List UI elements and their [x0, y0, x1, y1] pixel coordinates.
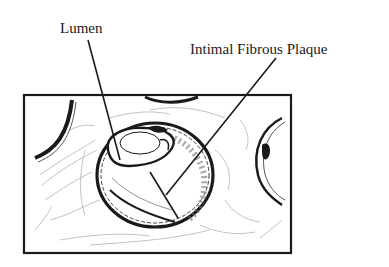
plaque-leader-line	[166, 58, 276, 195]
plaque-thickness-line	[150, 172, 178, 218]
micrograph-frame	[24, 95, 291, 253]
adjacent-vessel-left	[35, 100, 72, 158]
lumen-leader-line	[88, 40, 120, 160]
adjacent-vessel-right	[256, 118, 285, 205]
lumen-label: Lumen	[60, 20, 103, 36]
artery-diagram: Lumen Intimal Fibrous Plaque	[0, 0, 389, 267]
lumen	[108, 126, 174, 166]
plaque-label: Intimal Fibrous Plaque	[190, 41, 328, 57]
adjacent-vessel-top	[145, 97, 198, 102]
